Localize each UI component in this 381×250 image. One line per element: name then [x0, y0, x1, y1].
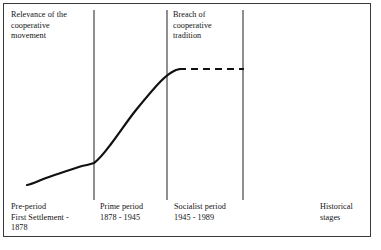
x-axis-label: Historical stages [320, 202, 376, 223]
y-axis-label: Relevance of the cooperative movement [11, 10, 91, 42]
period-label-socialist-period: Socialist period 1945 - 1989 [174, 202, 248, 223]
figure-container: Relevance of the cooperative movement Br… [0, 0, 381, 250]
annotation-breach-of-cooperative-tradition: Breach of cooperative tradition [173, 10, 239, 42]
relevance-curve [27, 69, 180, 185]
period-label-prime-period: Prime period 1878 - 1945 [100, 202, 170, 223]
period-label-pre-period: Pre-period First Settlement - 1878 [11, 202, 95, 234]
